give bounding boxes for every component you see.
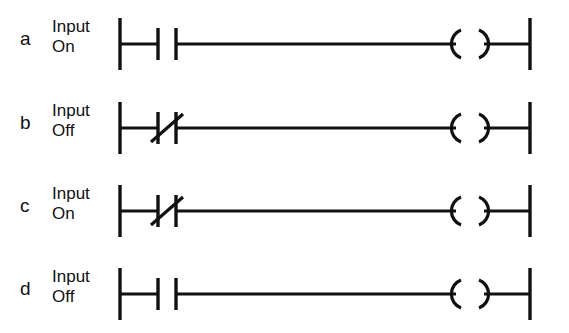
rung-graphic [0, 86, 569, 169]
coil-arc-left [451, 197, 461, 225]
ladder-diagram: aInputOnbInputOffcInputOndInputOff [0, 0, 569, 333]
ladder-rung: aInputOn [0, 2, 569, 85]
rung-graphic [0, 2, 569, 85]
coil-arc-left [451, 114, 461, 142]
rung-graphic [0, 252, 569, 333]
ladder-rung: bInputOff [0, 86, 569, 169]
ladder-rung: dInputOff [0, 252, 569, 333]
coil-arc-left [451, 280, 461, 308]
rung-graphic [0, 169, 569, 252]
ladder-rung: cInputOn [0, 169, 569, 252]
coil-arc-left [451, 30, 461, 58]
